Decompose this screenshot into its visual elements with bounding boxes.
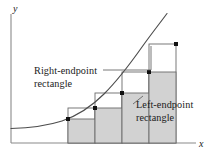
- endpoint-marker-5: [174, 42, 178, 46]
- left-endpoint-rectangle-1: [68, 119, 95, 143]
- left-endpoint-callout-line1: Left-endpoint: [136, 99, 193, 110]
- endpoint-marker-2: [93, 106, 97, 110]
- endpoint-marker-1: [66, 117, 70, 121]
- endpoint-marker-4: [147, 70, 151, 74]
- riemann-sum-figure: y x: [0, 0, 211, 154]
- right-endpoint-callout-line1: Right-endpoint: [34, 65, 97, 76]
- y-axis-label: y: [12, 3, 18, 14]
- left-endpoint-callout-line2: rectangle: [136, 112, 175, 123]
- x-axis-label: x: [198, 138, 204, 149]
- right-endpoint-callout-line2: rectangle: [34, 78, 73, 89]
- endpoint-marker-3: [120, 91, 124, 95]
- figure-container: y x: [0, 0, 211, 154]
- left-endpoint-rectangle-2: [95, 108, 122, 143]
